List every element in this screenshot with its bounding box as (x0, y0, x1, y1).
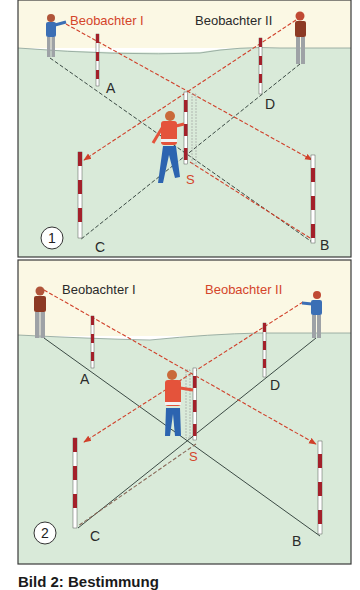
panel-2-pole-D (263, 323, 266, 377)
panel-1-label-S: S (186, 172, 195, 187)
panel-2-ground (18, 333, 351, 564)
figure-caption: Bild 2: Bestimmung (18, 573, 159, 590)
panel-1-observer-2-label: Beobachter II (195, 13, 272, 28)
pole-A (96, 34, 99, 86)
panel-1-label-D: D (265, 96, 275, 112)
panel-2-label-A: A (80, 371, 90, 387)
panel-1-label-C: C (95, 239, 105, 255)
panel-2-observer-1-label: Beobachter I (62, 282, 136, 297)
panel-2: Beobachter I Beobachter II A D S C B 2 (18, 260, 351, 564)
panel-2-number: 2 (41, 525, 49, 541)
panel-2-pole-B (318, 441, 322, 534)
panel-2-label-C: C (90, 528, 100, 544)
panel-1-observer-1-label: Beobachter I (70, 13, 144, 28)
panel-2-sky (18, 260, 351, 336)
pole-B (311, 155, 315, 243)
panel-2-pole-C (73, 438, 77, 528)
panel-1: Beobachter I Beobachter II A D S C B 1 (18, 0, 351, 257)
panel-2-number-badge: 2 (34, 522, 56, 544)
panel-1-number: 1 (48, 230, 56, 246)
pole-D (259, 38, 262, 94)
pole-C (78, 152, 82, 238)
panel-2-label-S: S (189, 449, 198, 464)
panel-1-label-A: A (106, 80, 116, 96)
panel-2-pole-A (91, 316, 94, 368)
panel-2-label-D: D (270, 377, 280, 393)
panel-2-label-B: B (292, 533, 301, 549)
panel-1-label-B: B (320, 237, 329, 253)
panel-2-observer-2-label: Beobachter II (205, 282, 282, 297)
panel-1-number-badge: 1 (41, 227, 63, 249)
